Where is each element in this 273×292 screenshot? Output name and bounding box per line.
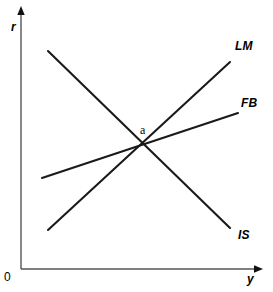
- curve-label-fb: FB: [241, 97, 257, 109]
- horizontal-axis-arrow-icon: [254, 265, 263, 272]
- horizontal-axis: [21, 265, 263, 272]
- is-lm-fb-chart: r 0 y LM FB IS a: [0, 0, 273, 292]
- curve-is: [48, 51, 230, 228]
- chart-canvas: [0, 0, 273, 292]
- vertical-axis-label: r: [11, 21, 16, 33]
- origin-label: 0: [4, 271, 11, 283]
- vertical-axis-arrow-icon: [17, 6, 24, 15]
- curve-label-lm: LM: [235, 40, 253, 52]
- horizontal-axis-label: y: [247, 273, 254, 285]
- vertical-axis: [17, 6, 24, 269]
- equilibrium-point-label: a: [140, 124, 145, 136]
- curve-label-is: IS: [238, 229, 250, 241]
